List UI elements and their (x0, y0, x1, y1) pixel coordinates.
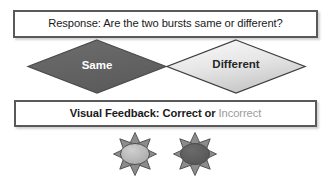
diagram-canvas: Response: Are the two bursts same or dif… (0, 0, 331, 176)
burst-right-center (181, 144, 210, 165)
burst-left-center (121, 144, 150, 165)
burst-stimuli-group (0, 0, 331, 176)
bursts-svg (0, 0, 331, 176)
burst-left-icon[interactable] (114, 133, 157, 176)
burst-right-icon[interactable] (174, 133, 217, 176)
